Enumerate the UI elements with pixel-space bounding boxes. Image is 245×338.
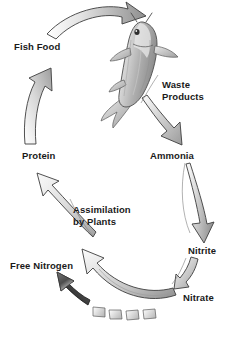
label-waste-products: WasteProducts [162,79,204,102]
label-nitrate: Nitrate [183,292,214,304]
label-ammonia: Ammonia [150,150,194,162]
label-nitrite: Nitrite [188,245,216,257]
label-fish-food: Fish Food [14,41,60,53]
arrow-protein-to-fish-food [24,68,52,144]
label-waste-products-line2: Products [162,91,204,102]
arrow-nitrate-to-assimilation [82,249,176,299]
label-assimilation-line1: Assimilation [73,204,131,215]
fish-illustration [101,13,178,128]
arrow-nitrite-to-nitrate [174,257,198,289]
arrow-waste-to-ammonia [142,95,182,145]
label-protein: Protein [22,150,55,162]
label-assimilation-by-plants: Assimilationby Plants [73,204,131,227]
label-assimilation-line2: by Plants [73,216,116,227]
arrow-ammonia-to-nitrite [186,163,214,243]
label-free-nitrogen: Free Nitrogen [10,260,73,272]
label-waste-products-line1: Waste [162,79,190,90]
